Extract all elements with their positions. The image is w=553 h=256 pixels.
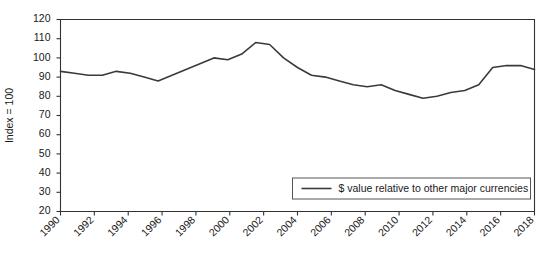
x-tick-label: 1998 (172, 213, 197, 238)
x-tick-label: 2000 (206, 213, 231, 238)
x-tick-label: 2006 (308, 213, 333, 238)
x-axis-tick-marks (61, 212, 535, 216)
x-tick-label: 1992 (71, 213, 96, 238)
x-tick-label: 1994 (105, 213, 130, 238)
x-tick-label: 1996 (138, 213, 163, 238)
x-tick-label: 2004 (274, 213, 299, 238)
legend-label: $ value relative to other major currenci… (339, 182, 529, 194)
y-axis-title: Index = 100 (3, 88, 15, 143)
line-chart: 2030405060708090100110120 19901992199419… (0, 0, 553, 256)
x-tick-label: 1990 (37, 213, 62, 238)
data-series-line (61, 43, 535, 99)
y-tick-label: 80 (39, 89, 51, 101)
x-tick-label: 2016 (477, 213, 502, 238)
chart-container: 2030405060708090100110120 19901992199419… (0, 0, 553, 256)
y-tick-label: 100 (33, 51, 51, 63)
y-tick-label: 110 (34, 31, 51, 43)
y-tick-label: 120 (33, 12, 51, 24)
y-tick-label: 30 (39, 185, 51, 197)
y-axis-tick-marks (57, 20, 61, 212)
y-axis-tick-labels: 2030405060708090100110120 (33, 12, 51, 216)
x-tick-label: 2014 (443, 213, 468, 238)
x-tick-label: 2012 (409, 213, 434, 238)
y-tick-label: 40 (39, 166, 51, 178)
x-tick-label: 2010 (375, 213, 400, 238)
y-tick-label: 50 (39, 147, 51, 159)
y-tick-label: 60 (39, 127, 51, 139)
y-tick-label: 70 (39, 108, 51, 120)
x-tick-label: 2008 (342, 213, 367, 238)
x-axis-tick-labels: 1990199219941996199820002002200420062008… (37, 213, 536, 238)
y-tick-label: 90 (39, 70, 51, 82)
chart-legend: $ value relative to other major currenci… (293, 178, 531, 199)
x-tick-label: 2018 (511, 213, 536, 238)
y-tick-label: 20 (39, 204, 51, 216)
x-tick-label: 2002 (240, 213, 265, 238)
